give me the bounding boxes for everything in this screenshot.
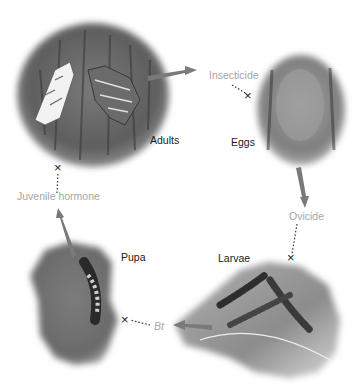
dotted-bt-pupa — [130, 320, 150, 325]
arrow-eggs-to-ovicide — [296, 167, 309, 208]
block-marker-pupa: × — [121, 313, 129, 326]
pupa-image — [30, 242, 118, 365]
control-label-insecticide: Insecticide — [209, 70, 259, 81]
adults-image — [17, 23, 169, 167]
block-marker-larvae: × — [287, 251, 295, 264]
control-label-juvenile-hormone: Juvenile hormone — [17, 191, 100, 202]
control-label-ovicide: Ovicide — [289, 211, 324, 222]
larvae-image — [175, 262, 340, 378]
control-label-bt: Bt — [154, 321, 164, 332]
stage-label-larvae: Larvae — [218, 253, 250, 264]
eggs-image — [257, 55, 345, 165]
life-cycle-diagram: × × × × Adults Eggs Larvae Pupa Insectic… — [0, 0, 357, 387]
stage-label-adults: Adults — [150, 135, 179, 146]
stage-label-eggs: Eggs — [231, 137, 255, 148]
block-marker-adults: × — [54, 161, 62, 174]
stage-label-pupa: Pupa — [121, 252, 146, 263]
block-marker-eggs: × — [244, 89, 252, 102]
